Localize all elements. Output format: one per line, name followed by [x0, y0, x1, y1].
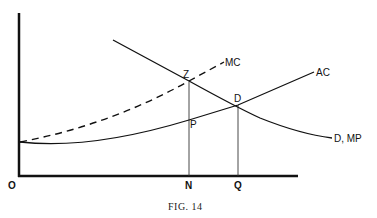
ac-label: AC: [316, 67, 330, 78]
economics-diagram: MC AC D, MP Z D P O N Q FIG. 14: [0, 0, 377, 218]
point-p-label: P: [190, 119, 197, 130]
origin-label: O: [8, 180, 16, 191]
mc-curve: [20, 62, 224, 142]
demand-label: D, MP: [334, 133, 362, 144]
ac-curve: [20, 72, 314, 144]
demand-curve: [113, 40, 332, 138]
point-d-label: D: [234, 93, 241, 104]
tick-label-q: Q: [234, 180, 242, 191]
tick-label-n: N: [185, 180, 192, 191]
mc-label: MC: [225, 57, 241, 68]
figure-caption: FIG. 14: [168, 201, 203, 212]
point-z-label: Z: [183, 69, 189, 80]
